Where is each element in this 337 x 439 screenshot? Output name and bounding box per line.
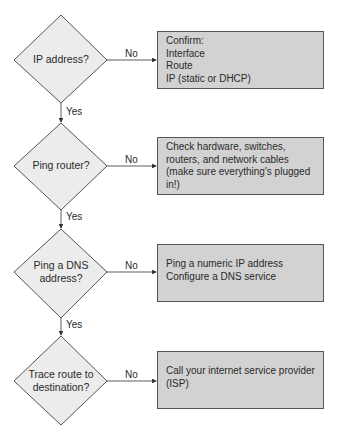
- decision-text: Ping a DNS: [21, 259, 101, 272]
- action-text: routers, and network cables: [166, 154, 315, 167]
- no-label-2: No: [125, 154, 138, 165]
- decision-text: Trace route to: [16, 368, 106, 381]
- action-text: Interface: [166, 48, 315, 61]
- no-label-1: No: [125, 48, 138, 59]
- decision-label-2: Ping router?: [21, 159, 101, 172]
- yes-label-3: Yes: [66, 319, 82, 330]
- action-text: IP (static or DHCP): [166, 73, 315, 86]
- decision-text: Ping router?: [21, 159, 101, 172]
- action-box-3: Ping a numeric IP address Configure a DN…: [157, 244, 324, 302]
- action-text: Confirm:: [166, 35, 315, 48]
- action-text: Configure a DNS service: [166, 271, 315, 284]
- no-label-3: No: [125, 260, 138, 271]
- action-text: Ping a numeric IP address: [166, 258, 315, 271]
- action-text: Check hardware, switches,: [166, 141, 315, 154]
- decision-text: address?: [21, 272, 101, 285]
- action-text: (make sure everything's plugged in!): [166, 166, 315, 191]
- decision-text: destination?: [16, 381, 106, 394]
- no-label-4: No: [125, 369, 138, 380]
- action-text: Route: [166, 60, 315, 73]
- action-text: (ISP): [166, 378, 315, 391]
- yes-label-2: Yes: [66, 211, 82, 222]
- action-text: Call your internet service provider: [166, 365, 315, 378]
- yes-label-1: Yes: [66, 106, 82, 117]
- decision-label-1: IP address?: [21, 53, 101, 66]
- action-box-4: Call your internet service provider (ISP…: [157, 351, 324, 409]
- decision-label-3: Ping a DNS address?: [21, 259, 101, 285]
- decision-text: IP address?: [21, 53, 101, 66]
- decision-label-4: Trace route to destination?: [16, 368, 106, 394]
- action-box-2: Check hardware, switches, routers, and n…: [157, 137, 324, 195]
- action-box-1: Confirm: Interface Route IP (static or D…: [157, 31, 324, 89]
